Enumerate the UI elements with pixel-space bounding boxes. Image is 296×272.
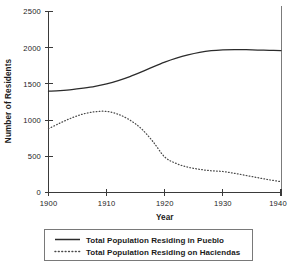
y-tick-label-2000: 2000 <box>23 44 41 53</box>
y-tick-label-500: 500 <box>28 152 41 161</box>
y-tick-label-2500: 2500 <box>23 7 41 16</box>
x-tick-label-1910: 1910 <box>98 199 116 208</box>
x-tick-label-1940: 1940 <box>269 199 287 208</box>
series-line-haciendas <box>49 111 282 181</box>
x-tick-label-1920: 1920 <box>156 199 174 208</box>
x-tick-label-1900: 1900 <box>40 199 58 208</box>
y-axis-title: Number of Residents <box>4 59 13 144</box>
chart-legend: Total Population Residing in Pueblo Tota… <box>45 230 253 261</box>
chart-figure: 2500 2000 1500 1000 500 0 1900 1910 1920… <box>0 0 296 272</box>
x-axis-title: Year <box>156 213 174 222</box>
x-tick-label-1930: 1930 <box>214 199 232 208</box>
series-line-pueblo <box>49 50 282 92</box>
line-chart: 2500 2000 1500 1000 500 0 1900 1910 1920… <box>0 0 296 272</box>
y-tick-label-1500: 1500 <box>23 80 41 89</box>
legend-label-pueblo: Total Population Residing in Pueblo <box>86 236 224 245</box>
legend-label-haciendas: Total Population Residing on Haciendas <box>86 248 241 257</box>
y-tick-label-1000: 1000 <box>23 116 41 125</box>
y-tick-label-0: 0 <box>37 188 41 197</box>
